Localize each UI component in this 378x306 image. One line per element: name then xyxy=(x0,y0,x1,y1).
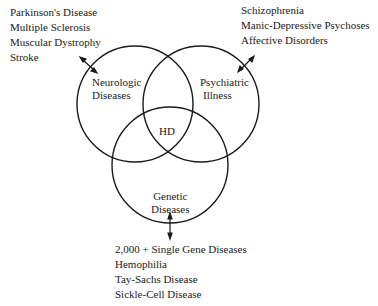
label-line: Illness xyxy=(200,89,249,102)
example-item: Tay-Sachs Disease xyxy=(115,272,247,287)
intersection-label: HD xyxy=(159,125,175,138)
psychiatric-arrow-icon xyxy=(238,56,254,72)
label-line: Genetic xyxy=(151,190,190,203)
example-item: Schizophrenia xyxy=(241,3,370,18)
psychiatric-examples: Schizophrenia Manic-Depressive Psychoses… xyxy=(241,3,370,48)
neurologic-label: Neurologic Diseases xyxy=(92,76,141,102)
psychiatric-circle xyxy=(143,46,259,162)
label-line: Psychiatric xyxy=(200,76,249,89)
example-item: Muscular Dystrophy xyxy=(10,35,101,50)
psychiatric-label: Psychiatric Illness xyxy=(200,76,249,102)
example-item: Stroke xyxy=(10,50,101,65)
label-line: Diseases xyxy=(92,89,141,102)
genetic-examples: 2,000 + Single Gene Diseases Hemophilia … xyxy=(115,242,247,302)
label-line: Diseases xyxy=(151,203,190,216)
example-item: Hemophilia xyxy=(115,257,247,272)
label-line: Neurologic xyxy=(92,76,141,89)
genetic-arrow-icon xyxy=(168,213,172,239)
neurologic-examples: Parkinson's Disease Multiple Sclerosis M… xyxy=(10,5,101,65)
example-item: Manic-Depressive Psychoses xyxy=(241,18,370,33)
example-item: Multiple Sclerosis xyxy=(10,20,101,35)
example-item: Parkinson's Disease xyxy=(10,5,101,20)
example-item: Affective Disorders xyxy=(241,33,370,48)
genetic-label: Genetic Diseases xyxy=(151,190,190,216)
example-item: 2,000 + Single Gene Diseases xyxy=(115,242,247,257)
example-item: Sickle-Cell Disease xyxy=(115,287,247,302)
